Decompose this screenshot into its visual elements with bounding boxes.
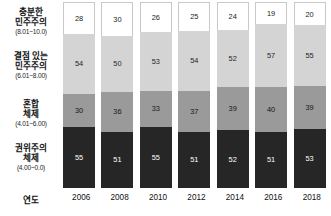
bar-segment: 53: [140, 32, 172, 91]
category-name-line2: 체제: [0, 154, 62, 164]
stacked-bar: 26533355: [140, 2, 172, 188]
bar-segment-value: 55: [152, 153, 160, 162]
category-range-full-democracy: (8.01~10.0): [0, 28, 62, 35]
stacked-bar: 25543751: [178, 2, 210, 188]
bar-segment: 51: [178, 132, 210, 189]
bar-segment: 51: [255, 132, 287, 189]
bar-column: 24523952: [216, 2, 254, 188]
bar-segment-value: 19: [267, 9, 275, 18]
bar-segment: 30: [63, 94, 95, 127]
x-axis-tick-label: 2006: [62, 193, 100, 202]
bar-segment: 19: [255, 2, 287, 24]
bar-segment-value: 30: [75, 106, 83, 115]
x-axis-tick-label: 2016: [254, 193, 292, 202]
bar-segment-value: 39: [305, 103, 313, 112]
bar-segment: 39: [294, 86, 326, 129]
bar-segment-value: 57: [267, 51, 275, 60]
bar-segment: 55: [140, 127, 172, 188]
bar-segment-value: 36: [113, 107, 121, 116]
bar-column: 30503651: [100, 2, 138, 188]
bar-segment-value: 52: [229, 155, 237, 164]
bar-segment-value: 55: [75, 153, 83, 162]
bar-segment: 40: [255, 87, 287, 131]
x-axis-title: 연도: [0, 193, 62, 205]
bar-segment-value: 51: [190, 155, 198, 164]
bar-segment: 39: [217, 87, 249, 130]
bar-segment-value: 37: [190, 107, 198, 116]
bar-column: 25543751: [177, 2, 215, 188]
stacked-bar: 19574051: [255, 2, 287, 188]
bar-segment-value: 26: [152, 13, 160, 22]
category-range-hybrid-regime: (4.01~6.00): [0, 120, 62, 127]
plot-area: 2854305530503651265333552554375124523952…: [62, 0, 331, 216]
bar-segment: 57: [255, 24, 287, 87]
bar-column: 19574051: [254, 2, 292, 188]
bar-segment: 52: [217, 130, 249, 188]
bar-segment-value: 53: [152, 57, 160, 66]
bar-segment: 36: [101, 92, 133, 132]
stacked-bar: 20553953: [294, 2, 326, 188]
bar-segment-value: 40: [267, 105, 275, 114]
bar-segment-value: 33: [152, 104, 160, 113]
bar-segment-value: 55: [305, 51, 313, 60]
category-label-flawed-democracy: 결점 있는 민주주의 (6.01~8.00): [0, 52, 62, 80]
bar-segment: 28: [63, 2, 95, 34]
category-axis: 충분한 민주주의 (8.01~10.0) 결점 있는 민주주의 (6.01~8.…: [0, 0, 62, 188]
x-axis-tick-label: 2010: [139, 193, 177, 202]
x-axis-tick-label: 2008: [100, 193, 138, 202]
bar-column: 28543055: [62, 2, 100, 188]
bar-segment: 24: [217, 2, 249, 30]
category-label-full-democracy: 충분한 민주주의 (8.01~10.0): [0, 8, 62, 36]
x-axis-tick-label: 2012: [177, 193, 215, 202]
bar-segment: 54: [178, 31, 210, 91]
bar-segment: 50: [101, 36, 133, 91]
bar-segment-value: 51: [113, 155, 121, 164]
bar-segment-value: 53: [305, 154, 313, 163]
category-label-hybrid-regime: 혼합 체제 (4.01~6.00): [0, 100, 62, 128]
x-axis-tick-labels: 2006200820102012201420162018: [62, 193, 331, 202]
bar-segment-value: 50: [113, 59, 121, 68]
bar-segment-value: 54: [190, 56, 198, 65]
category-name-line2: 민주주의: [0, 62, 62, 72]
stacked-bar: 24523952: [217, 2, 249, 188]
category-range-authoritarian-regime: (4.00~0.0): [0, 164, 62, 171]
bar-segment: 26: [140, 2, 172, 32]
bar-segment-value: 30: [113, 15, 121, 24]
category-name-line2: 민주주의: [0, 18, 62, 28]
bar-segment-value: 51: [267, 155, 275, 164]
bar-segment: 53: [294, 129, 326, 188]
bar-segment: 20: [294, 2, 326, 25]
category-range-flawed-democracy: (6.01~8.00): [0, 72, 62, 79]
bar-column: 20553953: [293, 2, 331, 188]
stacked-bar: 28543055: [63, 2, 95, 188]
bar-segment: 54: [63, 34, 95, 94]
bar-segment: 55: [294, 25, 326, 86]
bar-segment-value: 54: [75, 59, 83, 68]
x-axis-tick-label: 2014: [216, 193, 254, 202]
bar-segment: 33: [140, 91, 172, 128]
stacked-bar: 30503651: [101, 2, 133, 188]
stacked-bar-chart: 충분한 민주주의 (8.01~10.0) 결점 있는 민주주의 (6.01~8.…: [0, 0, 331, 216]
category-name-line2: 체제: [0, 110, 62, 120]
bar-segment: 30: [101, 2, 133, 36]
bar-segment: 25: [178, 2, 210, 31]
bar-segment-value: 28: [75, 14, 83, 23]
category-label-authoritarian-regime: 권위주의 체제 (4.00~0.0): [0, 144, 62, 172]
x-axis-tick-label: 2018: [293, 193, 331, 202]
bar-segment-value: 24: [229, 12, 237, 21]
bar-segment-value: 52: [229, 54, 237, 63]
bar-segment: 37: [178, 91, 210, 132]
bar-segment: 55: [63, 127, 95, 188]
bars-container: 2854305530503651265333552554375124523952…: [62, 2, 331, 188]
bar-segment: 52: [217, 30, 249, 88]
bar-segment-value: 20: [305, 10, 313, 19]
bar-segment-value: 39: [229, 104, 237, 113]
bar-segment-value: 25: [190, 12, 198, 21]
bar-segment: 51: [101, 132, 133, 189]
bar-column: 26533355: [139, 2, 177, 188]
